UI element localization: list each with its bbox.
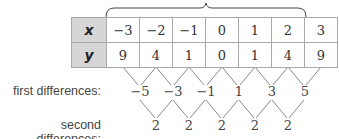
x-cell: 1 bbox=[239, 18, 272, 43]
first-difference-value: −1 bbox=[191, 84, 221, 99]
first-difference-value: 5 bbox=[290, 84, 320, 99]
y-cell: 9 bbox=[305, 43, 338, 68]
first-difference-value: 1 bbox=[224, 84, 254, 99]
x-cell: 0 bbox=[206, 18, 239, 43]
second-difference-value: 2 bbox=[273, 118, 303, 133]
second-differences-label: second differences: bbox=[0, 118, 101, 139]
y-row: y 9 4 1 0 1 4 9 bbox=[72, 43, 338, 68]
y-cell: 4 bbox=[140, 43, 173, 68]
y-cell: 1 bbox=[173, 43, 206, 68]
y-cell: 0 bbox=[206, 43, 239, 68]
first-difference-value: −5 bbox=[125, 84, 155, 99]
y-header: y bbox=[72, 43, 107, 68]
brace-icon bbox=[106, 3, 306, 17]
x-header: x bbox=[72, 18, 107, 43]
x-cell: −3 bbox=[107, 18, 140, 43]
first-difference-value: −3 bbox=[158, 84, 188, 99]
x-cell: −2 bbox=[140, 18, 173, 43]
y-cell: 1 bbox=[239, 43, 272, 68]
first-difference-value: 3 bbox=[257, 84, 287, 99]
y-cell: 4 bbox=[272, 43, 305, 68]
x-cell: 2 bbox=[272, 18, 305, 43]
first-differences-label: first differences: bbox=[0, 84, 101, 98]
values-table: x −3 −2 −1 0 1 2 3 y 9 4 1 0 1 4 9 bbox=[71, 17, 338, 68]
second-difference-value: 2 bbox=[141, 118, 171, 133]
x-row: x −3 −2 −1 0 1 2 3 bbox=[72, 18, 338, 43]
x-cell: 3 bbox=[305, 18, 338, 43]
second-difference-value: 2 bbox=[207, 118, 237, 133]
y-cell: 9 bbox=[107, 43, 140, 68]
second-difference-value: 2 bbox=[240, 118, 270, 133]
second-difference-value: 2 bbox=[174, 118, 204, 133]
x-cell: −1 bbox=[173, 18, 206, 43]
